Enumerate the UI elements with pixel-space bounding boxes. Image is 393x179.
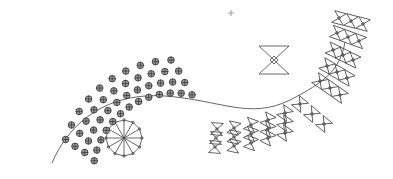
circle-seat-icon [103,127,110,134]
circle-seat-icon [81,149,88,156]
circle-seat-icon [83,118,90,125]
circle-seat-icon [169,79,176,86]
circle-seat-icon [68,122,75,129]
circle-seat-icon [91,157,98,164]
bowtie-seat-icon [322,80,339,97]
circle-seat-icon [137,62,144,69]
circle-seat-icon [100,96,107,103]
circle-seat-icon [90,127,97,134]
circle-seat-icon [145,94,152,101]
circle-seat-icon [152,58,159,65]
bowtie-seat-icon [304,106,321,123]
crosshair-marker-icon [228,10,234,16]
bowtie-seat-icon [227,139,241,153]
bowtie-seat-icon [243,135,258,150]
circle-seat-icon [148,70,155,77]
circle-seat-icon [97,117,104,124]
bowtie-seat-icon [260,121,276,137]
circle-seat-group [62,57,195,164]
circle-seat-icon [85,138,92,145]
circle-seat-icon [162,68,169,75]
circle-seat-icon [178,90,185,97]
bowtie-seat-icon [260,130,276,146]
round-table-icon [105,119,143,157]
bowtie-seat-icon [277,105,294,122]
bowtie-seat-icon [260,112,276,128]
circle-seat-icon [111,88,118,95]
circle-seat-icon [85,96,92,103]
bowtie-seat-icon [277,125,294,142]
circle-seat-icon [94,147,101,154]
circle-seat-icon [105,107,112,114]
bowtie-seat-icon [316,116,333,133]
bowtie-seat-icon [340,29,355,44]
circle-seat-icon [62,136,69,143]
circle-seat-icon [156,91,163,98]
bowtie-seat-icon [312,73,329,90]
circle-seat-icon [110,118,117,125]
circle-seat-icon [72,143,79,150]
circle-seat-icon [122,68,129,75]
bowtie-seat-icon [325,42,341,58]
bowtie-seat-icon [227,121,241,135]
circle-seat-icon [96,85,103,92]
circle-seat-icon [117,110,124,117]
circle-seat-icon [134,87,141,94]
bowtie-seat-icon [351,33,366,48]
bowtie-seat-icon [243,126,258,141]
bowtie-seat-icon [227,130,241,144]
bowtie-seat-icon [344,14,359,29]
bowtie-seat-icon [243,117,258,132]
circle-seat-icon [98,137,105,144]
bowtie-seat-icon [329,25,344,40]
seating-plan-canvas [0,0,393,179]
circle-seat-icon [181,79,188,86]
circle-seat-icon [168,57,175,64]
circle-seat-icon [189,91,196,98]
circle-seat-icon [126,104,133,111]
circle-seat-icon [175,68,182,75]
circle-seat-icon [76,130,83,137]
circle-seat-icon [91,107,98,114]
bowtie-seat-icon [277,115,294,132]
hourglass-symbol-icon [259,46,289,74]
bowtie-seat-icon [356,17,371,32]
bowtie-seat-icon [339,70,355,86]
circle-seat-icon [135,74,142,81]
bowtie-seat-icon [345,52,361,68]
bowtie-seat-group [208,11,370,154]
circle-seat-icon [76,108,83,115]
bowtie-seat-icon [332,87,349,104]
circle-seat-icon [145,82,152,89]
circle-seat-icon [167,90,174,97]
circle-seat-icon [114,99,121,106]
circle-seat-icon [157,80,164,87]
circle-seat-icon [122,80,129,87]
circle-seat-icon [135,98,142,105]
circle-seat-icon [123,92,130,99]
circle-seat-icon [109,75,116,82]
bowtie-seat-icon [332,11,347,26]
bowtie-seat-icon [319,58,335,74]
